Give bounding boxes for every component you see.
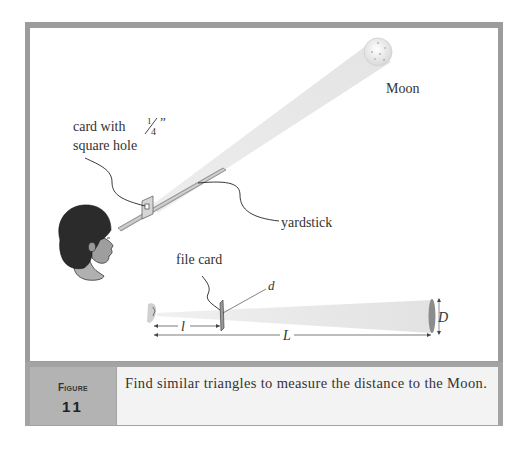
yardstick-leader-line [198,182,279,221]
file-card-icon [220,300,224,331]
person-head-icon [59,205,113,280]
fraction-denominator: 4 [151,126,156,137]
inch-mark: ” [160,114,166,129]
file-card-leader-line [202,276,220,310]
d-label: d [268,278,275,293]
figure-number-box: Figure 11 [30,367,116,425]
D-arrow-bottom [437,331,441,335]
moon-icon [364,38,392,66]
l-arrow-right [216,324,220,328]
card-label: card with [73,119,125,134]
caption-text: Find similar triangles to measure the di… [125,374,495,393]
caption-box: Find similar triangles to measure the di… [117,367,498,425]
figure-number: 11 [30,398,116,415]
figure-word-label: Figure [30,382,116,393]
square-hole-label: square hole [73,138,137,153]
yardstick-label: yardstick [281,215,332,230]
card-with-hole-icon [142,196,153,219]
eye-icon [147,303,156,323]
L-label: L [282,328,291,343]
L-arrow-right [427,333,431,337]
moon-label: Moon [386,81,419,96]
yardstick-icon [118,168,226,231]
l-label: l [181,319,185,334]
moon-disc-icon [429,299,436,333]
file-card-label: file card [176,252,222,267]
lower-sight-beam [157,300,432,333]
fraction-numerator: 1 [147,116,152,126]
D-arrow-top [437,298,441,302]
card-leader-line [85,158,145,206]
l-arrow-left [154,324,158,328]
D-label: D [437,310,448,325]
L-arrow-left [154,333,158,337]
